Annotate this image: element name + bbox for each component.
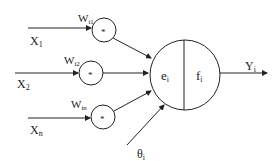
input-2: X2 Wi2 *	[15, 54, 148, 92]
input-n-label: Xn	[30, 123, 43, 138]
input-1-label: X1	[30, 34, 43, 49]
input-n: Xn Win *	[28, 91, 151, 138]
multiply-icon: *	[88, 70, 93, 80]
weight-1-label: Wi1	[78, 12, 94, 26]
neuron-body: ei fi	[150, 40, 220, 110]
bias-input: θi	[127, 105, 164, 161]
summation-label: ei	[161, 68, 170, 84]
output-label: Yi	[245, 59, 257, 74]
bias-label: θi	[137, 147, 146, 161]
weight-2-label: Wi2	[64, 54, 80, 68]
neuron-diagram: X1 Wi1 * X2 Wi2 * Xn Win * θi ei fi Yi	[0, 0, 278, 161]
multiply-icon: *	[100, 114, 105, 124]
output: Yi	[220, 59, 267, 74]
weight-n-label: Win	[71, 98, 87, 112]
multiply-icon: *	[101, 27, 106, 37]
input-1: X1 Wi1 *	[28, 12, 151, 58]
activation-label: fi	[196, 68, 203, 84]
input-2-label: X2	[17, 77, 30, 92]
